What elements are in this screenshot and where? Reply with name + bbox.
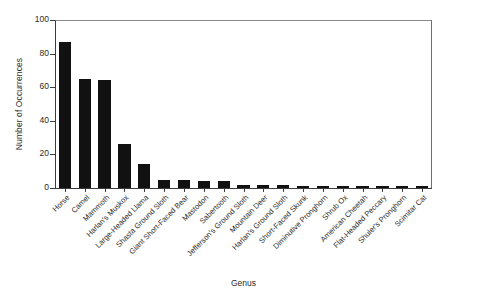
x-axis-tick-mark [224,188,225,192]
x-axis-tick-label: Horse [51,193,72,214]
y-axis-tick-value: 100 [22,15,49,24]
bar [138,164,150,188]
y-axis-tick-value: 60 [22,82,49,91]
x-axis-title: Genus [55,278,432,288]
x-axis-tick-mark [323,188,324,192]
x-axis-tick-mark [124,188,125,192]
x-axis-tick-labels: HorseCamelMammothHarlan's MuskoxLarge-He… [55,193,432,273]
y-axis-tick-label: 80 [22,49,49,59]
bar [98,80,110,188]
x-axis-tick-mark [382,188,383,192]
bar-series [55,20,432,188]
y-axis-tick-label: 100 [22,15,49,25]
x-axis-tick-mark [105,188,106,192]
bar-chart-figure: Number of Occurrences 020406080100 Horse… [0,0,483,304]
y-axis-tick-value: 40 [22,116,49,125]
y-axis-tick-value: 80 [22,49,49,58]
x-axis-tick-mark [244,188,245,192]
x-axis-tick-mark [65,188,66,192]
x-axis-tick-mark [343,188,344,192]
x-axis-tick-mark [402,188,403,192]
x-axis-tick-mark [164,188,165,192]
y-axis-tick-value: 20 [22,149,49,158]
y-axis-tick-label: 40 [22,116,49,126]
bar [198,181,210,188]
bar [59,42,71,188]
y-axis-tick-label: 60 [22,82,49,92]
x-axis-tick-mark [283,188,284,192]
y-axis-tick-label: 20 [22,149,49,159]
bar [79,79,91,188]
x-axis-tick-mark [144,188,145,192]
y-axis-tick-label: 0 [22,183,49,193]
y-axis-tick-value: 0 [22,183,49,192]
x-axis-tick-mark [85,188,86,192]
x-axis-tick-mark [422,188,423,192]
x-axis-tick-mark [363,188,364,192]
y-axis-tick-labels: 020406080100 [22,0,49,304]
bar [118,144,130,188]
x-axis-tick-mark [204,188,205,192]
x-axis-tick-mark [263,188,264,192]
bar [178,180,190,188]
bar [158,180,170,188]
x-axis-tick-mark [184,188,185,192]
bar [218,181,230,188]
x-axis-tick-mark [303,188,304,192]
